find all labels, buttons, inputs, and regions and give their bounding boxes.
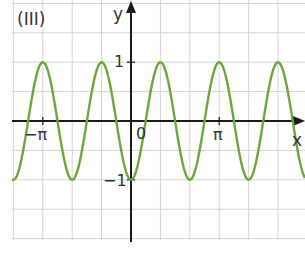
y-axis-label: y <box>113 4 123 24</box>
chart-title: (III) <box>17 9 45 29</box>
y-tick-1-label: 1 <box>114 52 124 71</box>
y-tick-neg1-label: −1 <box>103 171 127 190</box>
x-axis-label: x <box>292 130 302 150</box>
origin-label: 0 <box>136 124 146 143</box>
chart-container: (III) y x 0 −π π 1 −1 <box>0 0 305 256</box>
sine-graph: (III) y x 0 −π π 1 −1 <box>0 0 305 256</box>
axes <box>12 1 305 242</box>
pi-label: π <box>213 125 223 144</box>
neg-pi-label: −π <box>24 125 47 144</box>
